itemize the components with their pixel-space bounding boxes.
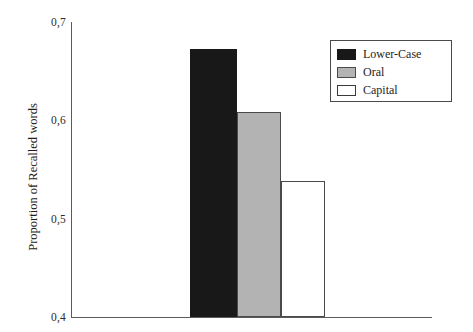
legend: Lower-Case Oral Capital bbox=[330, 40, 452, 102]
bar-oral bbox=[237, 112, 281, 317]
legend-swatch-icon-lower-case bbox=[337, 49, 356, 60]
y-tick-label: 0,6 bbox=[4, 114, 66, 126]
y-tick-2: 0,5 bbox=[0, 213, 66, 225]
legend-label: Capital bbox=[363, 84, 398, 97]
y-tick-label: 0,7 bbox=[4, 16, 66, 28]
y-tick-0: 0,7 bbox=[0, 16, 66, 28]
bar-lower-case bbox=[190, 49, 237, 317]
bar-capital bbox=[281, 181, 325, 317]
legend-swatch-icon-capital bbox=[337, 85, 356, 96]
x-axis-line bbox=[71, 317, 432, 318]
y-axis-title: Proportion of Recalled words bbox=[26, 52, 40, 302]
y-tick-1: 0,6 bbox=[0, 114, 66, 126]
legend-label: Lower-Case bbox=[363, 48, 421, 61]
y-tick-label: 0,4 bbox=[4, 311, 66, 323]
legend-item-oral: Oral bbox=[337, 64, 451, 81]
legend-item-capital: Capital bbox=[337, 82, 451, 99]
legend-swatch-icon-oral bbox=[337, 67, 356, 78]
legend-label: Oral bbox=[363, 66, 384, 79]
y-tick-label: 0,5 bbox=[4, 213, 66, 225]
legend-item-lower-case: Lower-Case bbox=[337, 46, 451, 63]
y-tick-3: 0,4 bbox=[0, 311, 66, 323]
bar-chart: Proportion of Recalled words 0,7 0,6 0,5… bbox=[0, 0, 473, 332]
